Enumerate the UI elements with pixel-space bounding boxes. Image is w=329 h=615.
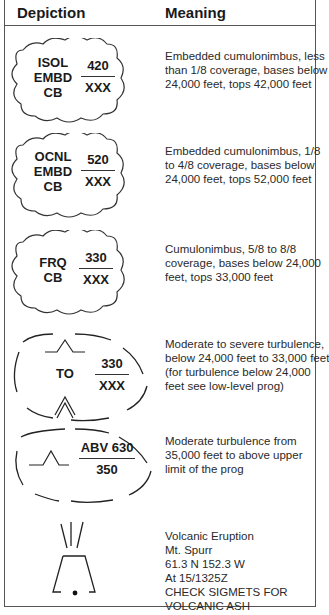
meaning-column-header: Meaning <box>165 4 226 21</box>
row-meaning: Moderate turbulence from 35,000 feet to … <box>165 434 302 476</box>
to-label: TO <box>49 366 81 381</box>
severe-turbulence-double-caret-icon <box>55 397 75 418</box>
tops-value: 420 <box>81 58 115 77</box>
cloud-outline-icon <box>5 133 155 218</box>
table-row: FRQ CB 330 XXX Cumulonimbus, 5/8 to 8/8 … <box>5 230 315 315</box>
cloud-outline-icon <box>5 38 155 123</box>
turbulence-caret-icon <box>29 451 69 465</box>
type-label: EMBD <box>29 164 77 179</box>
row-meaning: Moderate to severe turbulence, below 24,… <box>165 337 329 393</box>
row-meaning: Volcanic Eruption Mt. Spurr 61.3 N 152.3… <box>165 529 288 613</box>
tops-value: 520 <box>81 152 115 171</box>
row-meaning: Cumulonimbus, 5/8 to 8/8 coverage, bases… <box>165 242 321 284</box>
tops-value: ABV 630 <box>79 440 135 459</box>
row-meaning: Embedded cumulonimbus, less than 1/8 cov… <box>165 49 327 91</box>
bases-value: XXX <box>79 269 113 287</box>
table-row: ABV 630 350 Moderate turbulence from 35,… <box>5 423 315 503</box>
cloud-label: CB <box>29 85 77 100</box>
turbulence-caret-icon <box>45 340 85 352</box>
coverage-label: ISOL <box>29 55 77 70</box>
bases-value: XXX <box>95 375 129 393</box>
bases-value: 350 <box>79 459 135 477</box>
table-header: Depiction Meaning <box>5 0 315 26</box>
table-row: OCNL EMBD CB 520 XXX Embedded cumulonimb… <box>5 133 315 218</box>
depiction-column-header: Depiction <box>17 4 85 21</box>
legend-table: Depiction Meaning ISOL EMBD CB 420 XXX E… <box>4 0 316 607</box>
table-row: Volcanic Eruption Mt. Spurr 61.3 N 152.3… <box>5 518 315 603</box>
table-row: ISOL EMBD CB 420 XXX Embedded cumulonimb… <box>5 38 315 123</box>
volcano-icon <box>5 518 155 603</box>
tops-value: 330 <box>95 356 129 375</box>
bases-value: XXX <box>81 171 115 189</box>
cloud-label: CB <box>31 270 75 285</box>
type-label: EMBD <box>29 70 77 85</box>
bases-value: XXX <box>81 77 115 95</box>
coverage-label: OCNL <box>29 149 77 164</box>
tops-value: 330 <box>79 250 113 269</box>
volcano-location-dot <box>73 591 78 596</box>
coverage-label: FRQ <box>31 255 75 270</box>
cloud-label: CB <box>29 179 77 194</box>
table-row: TO 330 XXX Moderate to severe turbulence… <box>5 326 315 426</box>
row-meaning: Embedded cumulonimbus, 1/8 to 4/8 covera… <box>165 144 320 186</box>
